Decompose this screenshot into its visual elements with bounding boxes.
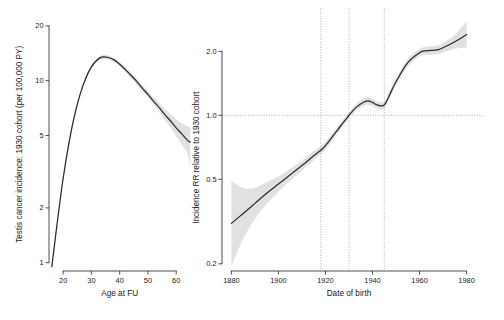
x-tick-label: 1920: [317, 276, 333, 285]
y-axis-title: Testis cancer incidence: 1930 cohort (pe…: [15, 45, 24, 242]
y-tick-label: 2.0: [206, 47, 216, 56]
x-axis-title: Age at FU: [101, 289, 138, 298]
x-tick-label: 40: [116, 276, 124, 285]
x-tick-label: 1900: [270, 276, 286, 285]
panel-rr-by-birth-year: 0.20.51.02.0188019001920194019601980Date…: [190, 0, 504, 320]
figure-container: 12510202030405060Age at FUTestis cancer …: [0, 0, 504, 320]
y-tick-label: 20: [35, 21, 43, 30]
panel-incidence-by-age: 12510202030405060Age at FUTestis cancer …: [0, 0, 200, 320]
x-tick-label: 1940: [364, 276, 380, 285]
y-tick-label: 0.5: [206, 175, 216, 184]
x-tick-label: 1980: [458, 276, 474, 285]
x-tick-label: 1960: [411, 276, 427, 285]
y-tick-label: 1: [39, 258, 43, 267]
rr-birthyear-chart: 0.20.51.02.0188019001920194019601980Date…: [190, 0, 504, 320]
x-tick-label: 20: [59, 276, 67, 285]
y-axis-title: Incidence RR relative to 1930 cohort: [192, 91, 201, 224]
y-tick-label: 10: [35, 76, 43, 85]
fitted-curve: [52, 57, 191, 267]
y-tick-label: 2: [39, 203, 43, 212]
x-tick-label: 60: [172, 276, 180, 285]
incidence-age-chart: 12510202030405060Age at FUTestis cancer …: [0, 0, 200, 320]
x-tick-label: 1880: [223, 276, 239, 285]
x-axis-title: Date of birth: [327, 289, 372, 298]
x-tick-label: 30: [87, 276, 95, 285]
y-tick-label: 0.2: [206, 259, 216, 268]
x-tick-label: 50: [144, 276, 152, 285]
confidence-band: [52, 55, 191, 270]
y-tick-label: 1.0: [206, 111, 216, 120]
y-tick-label: 5: [39, 131, 43, 140]
